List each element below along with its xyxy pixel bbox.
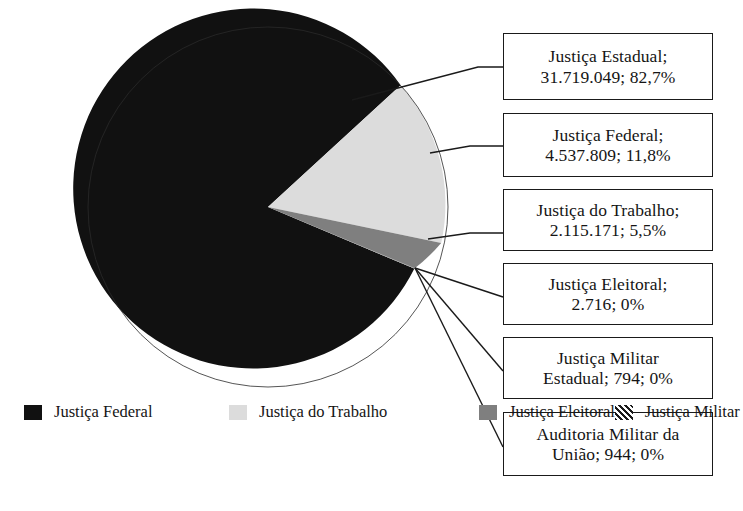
pie-chart-figure: Justiça Estadual; 31.719.049; 82,7% Just…	[0, 0, 743, 511]
legend-swatch-icon	[615, 405, 633, 420]
legend-swatch-icon	[479, 405, 497, 420]
callout-justica-do-trabalho: Justiça do Trabalho; 2.115.171; 5,5%	[503, 189, 713, 251]
callout-line-1: Justiça do Trabalho;	[537, 200, 680, 220]
callout-justica-estadual: Justiça Estadual; 31.719.049; 82,7%	[503, 33, 713, 100]
callout-line-1: Justiça Estadual;	[541, 46, 676, 66]
leader-line-federal	[430, 146, 503, 153]
leader-line-militar-estadual	[415, 268, 503, 371]
legend-item-justica-federal: Justiça Federal	[24, 402, 229, 422]
callout-line-2: 4.537.809; 11,8%	[545, 145, 670, 165]
callout-justica-eleitoral: Justiça Eleitoral; 2.716; 0%	[503, 263, 713, 325]
legend-label: Justiça Militar Estadual	[645, 402, 743, 422]
legend-item-justica-eleitoral: Justiça Eleitoral	[479, 402, 615, 422]
legend-label: Justiça Federal	[54, 402, 153, 422]
callout-line-1: Auditoria Militar da	[537, 424, 680, 444]
legend-swatch-icon	[229, 405, 247, 420]
callout-justica-militar-estadual: Justiça Militar Estadual; 794; 0%	[503, 337, 713, 399]
callout-line-2: 2.115.171; 5,5%	[537, 220, 680, 240]
legend-swatch-icon	[24, 405, 42, 420]
callout-line-2: 31.719.049; 82,7%	[541, 67, 676, 87]
legend-item-justica-militar-estadual: Justiça Militar Estadual	[615, 402, 743, 422]
callout-line-2: União; 944; 0%	[537, 444, 680, 464]
legend-item-justica-do-trabalho: Justiça do Trabalho	[229, 402, 479, 422]
callout-line-2: Estadual; 794; 0%	[543, 368, 673, 388]
legend-label: Justiça Eleitoral	[509, 402, 615, 422]
callout-line-2: 2.716; 0%	[549, 294, 668, 314]
callout-line-1: Justiça Militar	[543, 348, 673, 368]
callout-line-1: Justiça Federal;	[545, 125, 670, 145]
chart-legend: Justiça Federal Justiça do Trabalho Just…	[24, 398, 479, 426]
callout-justica-federal: Justiça Federal; 4.537.809; 11,8%	[503, 113, 713, 177]
legend-label: Justiça do Trabalho	[259, 402, 387, 422]
callout-line-1: Justiça Eleitoral;	[549, 274, 668, 294]
